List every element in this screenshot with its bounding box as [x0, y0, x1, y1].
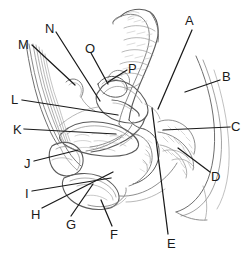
label-p[interactable]: P	[128, 62, 137, 75]
label-f[interactable]: F	[110, 228, 118, 241]
label-o[interactable]: O	[85, 42, 95, 55]
label-a[interactable]: A	[185, 14, 194, 27]
label-d[interactable]: D	[211, 170, 220, 183]
anatomy-figure: ABCDEFGHIJKLMNOP	[0, 0, 252, 263]
label-e[interactable]: E	[167, 237, 176, 250]
label-b[interactable]: B	[222, 70, 231, 83]
label-n[interactable]: N	[45, 22, 54, 35]
label-h[interactable]: H	[31, 208, 40, 221]
label-j[interactable]: J	[24, 157, 31, 170]
label-k[interactable]: K	[13, 123, 22, 136]
label-g[interactable]: G	[66, 218, 76, 231]
label-m[interactable]: M	[18, 38, 29, 51]
label-c[interactable]: C	[231, 120, 240, 133]
label-i[interactable]: I	[25, 187, 29, 200]
anatomy-illustration	[0, 0, 252, 263]
label-l[interactable]: L	[11, 93, 18, 106]
